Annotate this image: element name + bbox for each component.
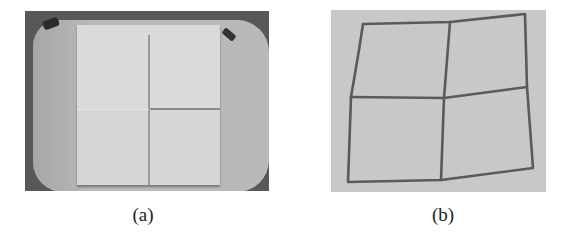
photo-a — [25, 11, 269, 191]
distorted-grid — [331, 10, 546, 192]
fold-line-horizontal-right — [150, 108, 220, 110]
fold-line-horizontal-left — [77, 109, 149, 110]
panel-label-b: (b) — [413, 204, 473, 226]
fold-line-vertical — [148, 35, 150, 185]
photo-b — [331, 10, 546, 192]
panel-label-a: (a) — [113, 204, 173, 226]
